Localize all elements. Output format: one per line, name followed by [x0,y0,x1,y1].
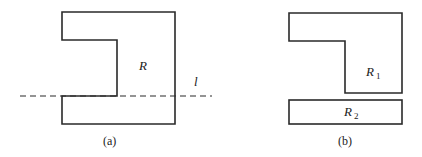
line-l-label: l [194,74,198,89]
region-r2-label: R [343,104,352,119]
caption-a: (a) [103,134,116,148]
region-r1-label: R [365,64,374,79]
panel-b: R 1 R 2 (b) [289,13,402,148]
region-r-label: R [138,58,147,73]
region-r1-outline [289,13,402,93]
region-r-outline [62,12,175,124]
region-r2-subscript: 2 [354,111,359,121]
diagram-canvas: R l (a) R 1 R 2 (b) [0,0,422,157]
caption-b: (b) [338,134,352,148]
region-r1-subscript: 1 [376,71,381,81]
panel-a: R l (a) [20,12,212,148]
